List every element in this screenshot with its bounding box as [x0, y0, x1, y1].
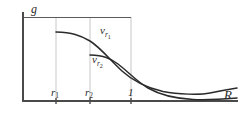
curve-label-v-r1-subnum: 1	[108, 34, 111, 40]
tick-label-one-main: 1	[128, 86, 134, 98]
tick-label-r1-sub: 1	[55, 91, 59, 100]
tick-label-r1: r1	[51, 86, 59, 100]
velocity-profile-chart: g R vr1 vr2 r1 r2 1	[0, 0, 242, 118]
figure-container: g R vr1 vr2 r1 r2 1	[0, 0, 242, 118]
curve-label-v-r2-subnum: 2	[100, 63, 103, 69]
level-label-g: g	[31, 2, 37, 16]
curve-v-r1	[56, 32, 237, 94]
curve-label-v-r1: vr1	[100, 24, 111, 40]
tick-label-r2: r2	[85, 86, 93, 100]
tick-label-one: 1	[128, 86, 134, 98]
x-axis-label-R: R	[223, 87, 232, 102]
tick-label-r2-sub: 2	[89, 91, 93, 100]
